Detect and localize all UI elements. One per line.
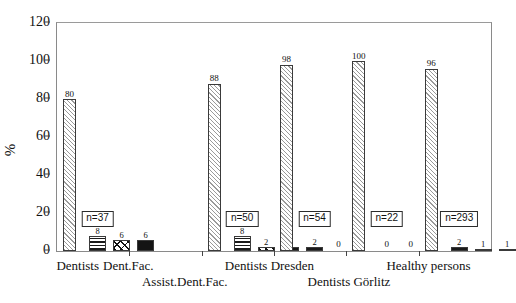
bar: 2 (306, 247, 323, 251)
sample-size-box: n=50 (226, 211, 259, 227)
bar: 98 (280, 65, 293, 251)
bar: 88 (208, 84, 221, 251)
sample-size-box: n=54 (298, 211, 331, 227)
bar-value-label: 6 (143, 231, 147, 240)
y-tick-mark (45, 98, 50, 99)
x-tick-mark (419, 251, 420, 256)
bar: 8 (234, 236, 251, 251)
bar: 96 (425, 69, 438, 251)
bar-value-label: 6 (119, 231, 123, 240)
y-tick-mark (45, 212, 50, 213)
bar-value-label: 2 (264, 238, 268, 247)
bar: 1 (475, 249, 492, 251)
plot-area: 80866n=3788822n=5098200n=54100000n=22962… (56, 22, 492, 252)
x-tick-mark (202, 251, 203, 256)
bar: 6 (113, 240, 130, 251)
y-tick-mark (45, 174, 50, 175)
y-tick-mark (45, 60, 50, 61)
x-axis-group-label: Healthy persons (386, 258, 470, 274)
bar-value-label: 100 (352, 52, 366, 61)
sample-size-box: n=22 (371, 211, 404, 227)
bar-value-label: 0 (409, 239, 414, 249)
x-tick-mark (129, 251, 130, 256)
bar: 1 (499, 249, 516, 251)
bar-value-label: 98 (282, 55, 291, 64)
bar-value-label: 8 (95, 227, 99, 236)
bar-value-label: 96 (427, 59, 436, 68)
bar-value-label: 1 (505, 240, 509, 249)
bar-value-label: 8 (240, 227, 244, 236)
bar-value-label: 1 (481, 240, 485, 249)
bar-value-label: 0 (385, 239, 390, 249)
bar-value-label: 0 (336, 239, 341, 249)
x-axis-group-label: Assist.Dent.Fac. (142, 274, 228, 290)
bar: 100 (352, 61, 365, 251)
bar-value-label: 2 (457, 238, 461, 247)
x-axis-group-label: Dentists Dresden (225, 258, 314, 274)
y-axis: 020406080100120 (0, 0, 50, 303)
x-tick-mark (346, 251, 347, 256)
bar-value-label: 88 (210, 74, 219, 83)
y-tick-mark (45, 250, 50, 251)
bar-value-label: 2 (312, 238, 316, 247)
sample-size-box: n=293 (440, 211, 478, 227)
x-tick-mark (274, 251, 275, 256)
bar: 6 (137, 240, 154, 251)
y-tick-mark (45, 136, 50, 137)
bar: 8 (89, 236, 106, 251)
x-axis-group-label: Dentists Görlitz (308, 274, 391, 290)
x-axis-group-label: Dentists (56, 258, 99, 274)
bar: 2 (451, 247, 468, 251)
x-axis-group-label: Dent.Fac. (103, 258, 154, 274)
bar-value-label: 80 (65, 90, 74, 99)
y-tick-mark (45, 22, 50, 23)
bar: 80 (63, 99, 76, 251)
bar: 2 (258, 247, 275, 251)
sample-size-box: n=37 (81, 211, 114, 227)
